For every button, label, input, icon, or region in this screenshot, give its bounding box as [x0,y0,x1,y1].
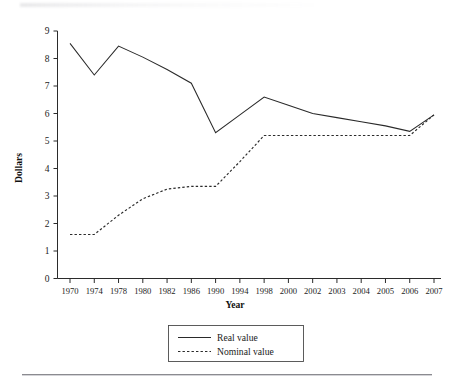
x-tick-label: 2003 [328,286,345,296]
x-tick-label: 1970 [61,286,78,296]
x-tick-label: 2004 [353,286,371,296]
x-tick-label: 1974 [86,286,104,296]
series-line-real-value [70,43,434,132]
x-tick-label: 1980 [134,286,151,296]
x-tick-label: 2007 [425,286,443,296]
x-tick-label: 2002 [304,286,321,296]
y-tick-label: 1 [45,246,50,256]
chart-legend: Real value Nominal value [169,326,304,362]
y-tick-label: 5 [45,136,50,146]
y-tick-label: 6 [45,109,50,119]
x-tick-label: 1994 [231,286,249,296]
x-tick-label: 1990 [207,286,224,296]
y-tick-label: 7 [45,81,50,91]
x-tick-label: 2005 [377,286,394,296]
series-line-nominal-value [70,115,434,235]
legend-label-real-value: Real value [217,332,258,343]
y-tick-label: 3 [45,191,50,201]
y-tick-label: 2 [45,219,50,229]
y-tick-label: 4 [45,164,50,174]
x-tick-label: 2006 [401,286,419,296]
y-tick-label: 8 [45,54,50,64]
y-tick-label: 0 [45,274,50,284]
x-axis-ticks: 1970197419781980198219861990199419982000… [61,279,443,296]
x-axis-title: Year [225,299,245,310]
page-footer-rule [22,374,432,375]
y-axis-title: Dollars [13,153,24,183]
y-axis-ticks: 0123456789 [45,26,58,284]
figure-container: 0123456789 19701974197819801982198619901… [0,0,452,381]
x-tick-label: 1986 [183,286,201,296]
page-artifact-smudge [20,3,320,7]
legend-label-nominal-value: Nominal value [217,346,274,357]
x-tick-label: 2000 [280,286,297,296]
line-chart: 0123456789 19701974197819801982198619901… [0,0,452,381]
y-tick-label: 9 [45,26,50,36]
x-tick-label: 1978 [110,286,127,296]
x-tick-label: 1982 [158,286,175,296]
x-tick-label: 1998 [256,286,273,296]
